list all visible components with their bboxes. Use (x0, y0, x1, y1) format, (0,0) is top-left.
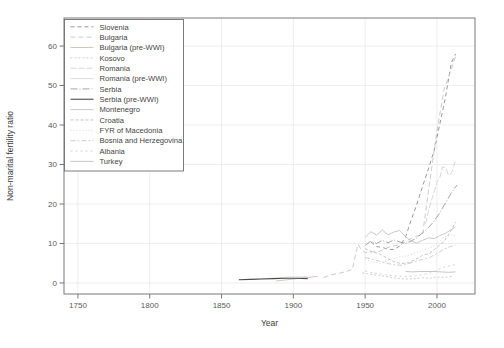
series-line-bulgaria (324, 56, 456, 277)
legend-label: Albania (100, 147, 126, 156)
series-line-romania (426, 161, 456, 224)
y-tick-label: 40 (48, 121, 57, 130)
x-tick-label: 2000 (428, 301, 446, 310)
series-line-montenegro (365, 227, 456, 243)
y-axis-title: Non-marital fertility ratio (5, 111, 15, 201)
legend-label: Croatia (100, 116, 125, 125)
chart-canvas: 1750180018501900195020000102030405060Yea… (0, 0, 504, 348)
legend-label: Slovenia (100, 23, 130, 32)
legend-label: Serbia (100, 85, 123, 94)
series-line-turkey (405, 272, 455, 273)
series-group (239, 54, 457, 281)
x-tick-label: 1750 (69, 301, 87, 310)
y-tick-label: 60 (48, 42, 57, 51)
legend-label: Bulgaria (pre-WWI) (100, 43, 165, 52)
chart-figure: 1750180018501900195020000102030405060Yea… (0, 0, 504, 348)
series-line-bosnia-and-herzegovina (365, 245, 456, 265)
y-tick-label: 0 (53, 279, 58, 288)
legend-label: FYR of Macedonia (100, 126, 164, 135)
legend-label: Montenegro (100, 105, 141, 114)
x-tick-label: 1950 (356, 301, 374, 310)
legend-label: Kosovo (100, 54, 125, 63)
legend-label: Romania (pre-WWI) (100, 74, 168, 83)
legend-label: Serbia (pre-WWI) (100, 95, 160, 104)
legend-label: Bulgaria (100, 33, 129, 42)
y-tick-label: 50 (48, 81, 57, 90)
y-tick-label: 30 (48, 160, 57, 169)
series-line-slovenia (371, 54, 456, 250)
x-tick-label: 1800 (141, 301, 159, 310)
x-tick-label: 1900 (284, 301, 302, 310)
legend-label: Romania (100, 64, 131, 73)
x-tick-label: 1850 (213, 301, 231, 310)
legend-label: Turkey (100, 157, 123, 166)
legend: SloveniaBulgariaBulgaria (pre-WWI)Kosovo… (65, 20, 184, 172)
legend-label: Bosnia and Herzegovina (100, 136, 184, 145)
series-line-albania (365, 264, 456, 276)
y-tick-label: 10 (48, 239, 57, 248)
y-tick-label: 20 (48, 200, 57, 209)
series-line-serbia (365, 185, 457, 245)
x-axis-title: Year (261, 318, 278, 328)
